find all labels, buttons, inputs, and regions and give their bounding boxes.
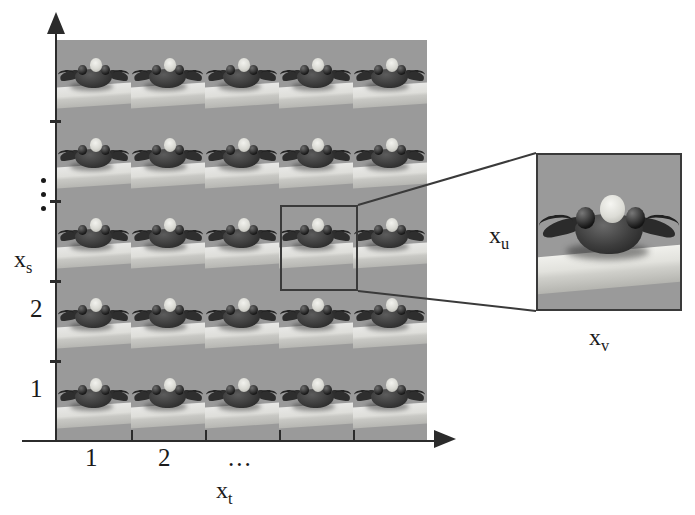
x-axis-arrow-icon (434, 430, 456, 448)
grid-cell[interactable] (205, 40, 279, 120)
cell-head-left (152, 305, 161, 315)
grid-cell[interactable] (353, 40, 427, 120)
detail-photo (538, 155, 680, 309)
cell-photo (353, 280, 427, 360)
x-tick-label-2: 2 (158, 444, 171, 472)
cell-head-left (78, 145, 87, 155)
cell-photo (57, 360, 131, 440)
cell-photo (205, 280, 279, 360)
grid-cell[interactable] (57, 360, 131, 440)
cell-photo (279, 360, 353, 440)
grid-cell[interactable] (57, 40, 131, 120)
cell-photo (205, 200, 279, 280)
y-axis-title: xs (14, 247, 32, 276)
cell-photo (131, 280, 205, 360)
cell-head-left (226, 145, 235, 155)
grid-cell[interactable] (279, 360, 353, 440)
cell-head-left (226, 305, 235, 315)
cell-photo (205, 120, 279, 200)
detail-head-left (576, 207, 594, 229)
detail-zoom-panel (536, 153, 682, 311)
cell-head-left (152, 385, 161, 395)
cell-photo (57, 40, 131, 120)
cell-photo (131, 360, 205, 440)
y-tick-label-2: 2 (30, 295, 43, 323)
cell-photo (279, 280, 353, 360)
grid-cell[interactable] (131, 360, 205, 440)
x-tick-label-1: 1 (85, 444, 98, 472)
detail-head-right (626, 207, 644, 229)
cell-photo (57, 280, 131, 360)
y-axis-tick (50, 360, 61, 363)
grid-cell[interactable] (57, 120, 131, 200)
grid-cell[interactable] (353, 200, 427, 280)
grid-cell[interactable] (353, 280, 427, 360)
cell-head-left (374, 65, 383, 75)
cell-head-left (78, 225, 87, 235)
cell-head-left (300, 305, 309, 315)
grid-cell[interactable] (279, 40, 353, 120)
cell-photo (57, 120, 131, 200)
cell-head-left (152, 65, 161, 75)
y-axis-ellipsis-icon (41, 178, 46, 220)
cell-head-left (374, 305, 383, 315)
cell-head-left (374, 385, 383, 395)
y-axis-tick (50, 120, 61, 123)
cell-head-left (374, 225, 383, 235)
cell-photo (353, 360, 427, 440)
grid-cell[interactable] (205, 360, 279, 440)
grid-cell[interactable] (131, 280, 205, 360)
grid-cell[interactable] (131, 120, 205, 200)
figure-canvas: 1 2 1 2 ... xs xt xu xv (0, 0, 695, 515)
cell-head-left (152, 225, 161, 235)
x-axis-title: xt (216, 478, 233, 507)
y-axis-tick (50, 200, 61, 203)
grid-cell[interactable] (205, 280, 279, 360)
cell-head-left (152, 145, 161, 155)
y-axis-arrow-icon (47, 12, 65, 34)
cell-photo (131, 120, 205, 200)
x-axis-line (22, 440, 440, 442)
x-tick-label-ellipsis: ... (228, 444, 253, 472)
grid-cell[interactable] (353, 120, 427, 200)
x-axis-tick (131, 430, 133, 442)
cell-head-left (300, 65, 309, 75)
detail-vertical-axis-label: xu (489, 223, 509, 252)
cell-photo (279, 40, 353, 120)
cell-head-left (226, 385, 235, 395)
grid-cell[interactable] (353, 360, 427, 440)
y-tick-label-1: 1 (30, 375, 43, 403)
cell-photo (353, 200, 427, 280)
cell-photo (131, 200, 205, 280)
cell-head-left (78, 65, 87, 75)
grid-cell[interactable] (205, 200, 279, 280)
grid-cell[interactable] (279, 280, 353, 360)
cell-photo (205, 360, 279, 440)
y-axis-line (55, 30, 57, 442)
x-axis-tick (205, 430, 207, 442)
cell-head-left (374, 145, 383, 155)
grid-cell[interactable] (57, 280, 131, 360)
y-axis-tick (50, 280, 61, 283)
selected-cell-highlight-box[interactable] (280, 205, 358, 291)
detail-horizontal-axis-label: xv (589, 325, 609, 354)
detail-highlight (600, 195, 624, 223)
image-grid (57, 40, 427, 440)
cell-photo (57, 200, 131, 280)
cell-head-left (78, 385, 87, 395)
cell-head-left (78, 305, 87, 315)
cell-head-left (300, 145, 309, 155)
cell-photo (279, 120, 353, 200)
cell-head-left (226, 65, 235, 75)
grid-cell[interactable] (57, 200, 131, 280)
cell-photo (353, 120, 427, 200)
grid-cell[interactable] (205, 120, 279, 200)
x-axis-tick (279, 430, 281, 442)
cell-photo (131, 40, 205, 120)
grid-cell[interactable] (131, 200, 205, 280)
cell-photo (205, 40, 279, 120)
grid-cell[interactable] (131, 40, 205, 120)
grid-cell[interactable] (279, 120, 353, 200)
cell-head-left (226, 225, 235, 235)
cell-photo (353, 40, 427, 120)
